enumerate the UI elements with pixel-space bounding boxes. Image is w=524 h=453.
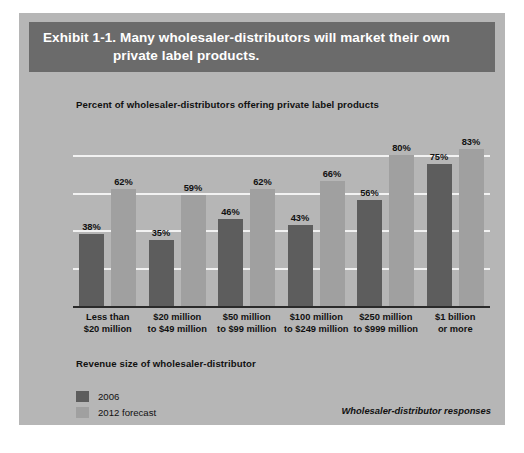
x-axis-tick-label-line: $1 billion <box>415 312 497 324</box>
legend-swatch-icon-2012-forecast <box>76 407 89 418</box>
bar[interactable]: 83% <box>459 149 484 306</box>
bar[interactable]: 35% <box>149 240 174 306</box>
source-note: Wholesaler-distributor responses <box>341 405 491 416</box>
bar-group: 35%59% <box>143 117 213 306</box>
legend-label-2012-forecast: 2012 forecast <box>98 407 156 418</box>
bar-value-label: 46% <box>221 207 240 217</box>
legend-swatch-icon-2006 <box>76 391 89 402</box>
exhibit-title-banner: Exhibit 1-1. Many wholesaler-distributor… <box>29 22 495 72</box>
bar-value-label: 66% <box>323 169 342 179</box>
legend-item-2006: 2006 <box>76 389 156 403</box>
bar[interactable]: 80% <box>389 155 414 306</box>
legend-item-2012-forecast: 2012 forecast <box>76 405 156 419</box>
legend-label-2006: 2006 <box>98 391 119 402</box>
bar-value-label: 35% <box>152 228 171 238</box>
bar-group: 43%66% <box>282 117 352 306</box>
bar[interactable]: 56% <box>357 200 382 306</box>
bar-group: 46%62% <box>212 117 282 306</box>
x-axis-line <box>73 306 490 308</box>
bar-value-label: 43% <box>291 213 310 223</box>
chart-title: Percent of wholesaler-distributors offer… <box>76 99 379 110</box>
x-axis-tick-label-line: or more <box>415 324 497 336</box>
bar-value-label: 75% <box>430 152 449 162</box>
bar-value-label: 80% <box>392 143 411 153</box>
chart-bars-layer: 38%62%35%59%46%62%43%66%56%80%75%83% <box>73 117 490 306</box>
bar-value-label: 56% <box>360 188 379 198</box>
exhibit-title-line-1: Exhibit 1-1. Many wholesaler-distributor… <box>29 29 495 47</box>
exhibit-title-line-2: private label products. <box>29 47 495 65</box>
x-axis-tick-label: $1 billionor more <box>415 312 497 335</box>
bar[interactable]: 43% <box>288 225 313 306</box>
bar-value-label: 38% <box>82 222 101 232</box>
bar[interactable]: 59% <box>181 195 206 307</box>
chart-legend: 2006 2012 forecast <box>76 389 156 421</box>
bar-value-label: 59% <box>184 183 203 193</box>
bar[interactable]: 66% <box>320 181 345 306</box>
bar[interactable]: 75% <box>427 164 452 306</box>
bar-group: 38%62% <box>73 117 143 306</box>
bar-group: 75%83% <box>421 117 491 306</box>
bar[interactable]: 62% <box>111 189 136 306</box>
exhibit-panel: Exhibit 1-1. Many wholesaler-distributor… <box>19 13 505 425</box>
bar[interactable]: 38% <box>79 234 104 306</box>
bar-group: 56%80% <box>351 117 421 306</box>
x-axis-category-labels: Less than$20 million$20 millionto $49 mi… <box>73 312 490 344</box>
bar-value-label: 62% <box>253 177 272 187</box>
bar[interactable]: 46% <box>218 219 243 306</box>
x-axis-title: Revenue size of wholesaler-distributor <box>76 358 256 369</box>
bar-value-label: 83% <box>462 137 481 147</box>
bar-value-label: 62% <box>114 177 133 187</box>
bar[interactable]: 62% <box>250 189 275 306</box>
